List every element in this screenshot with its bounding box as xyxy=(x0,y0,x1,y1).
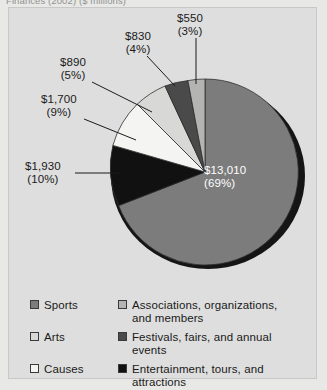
legend-item-associations[interactable]: Associations, organizations, and members xyxy=(118,299,300,325)
legend-swatch-arts xyxy=(30,332,39,341)
chart-legend: Sports Associations, organizations, and … xyxy=(30,299,300,390)
slice-percent-sports: (69%) xyxy=(204,177,246,190)
slice-label-festivals: $830 (4%) xyxy=(125,30,151,55)
legend-label-sports: Sports xyxy=(44,299,78,312)
legend-swatch-festivals xyxy=(118,332,127,341)
legend-row: Causes Entertainment, tours, and attract… xyxy=(30,363,300,389)
slice-label-causes: $1,700 (9%) xyxy=(41,93,77,118)
legend-row: Sports Associations, organizations, and … xyxy=(30,299,300,325)
legend-label-arts: Arts xyxy=(44,331,65,344)
leader-line-arts xyxy=(92,82,152,112)
slice-amount-sports: $13,010 xyxy=(204,164,246,177)
legend-label-causes: Causes xyxy=(44,363,84,376)
legend-row: Arts Festivals, fairs, and annual events xyxy=(30,331,300,357)
legend-label-associations: Associations, organizations, and members xyxy=(132,299,300,325)
pie-svg xyxy=(0,0,327,300)
slice-percent-arts: (5%) xyxy=(60,69,86,82)
legend-item-entertainment[interactable]: Entertainment, tours, and attractions xyxy=(118,363,300,389)
legend-item-festivals[interactable]: Festivals, fairs, and annual events xyxy=(118,331,300,357)
slice-amount-festivals: $830 xyxy=(125,30,151,43)
legend-swatch-sports xyxy=(30,300,39,309)
legend-swatch-associations xyxy=(118,300,127,309)
legend-item-arts[interactable]: Arts xyxy=(30,331,118,344)
slice-label-associations: $550 (3%) xyxy=(177,12,203,37)
legend-label-entertainment: Entertainment, tours, and attractions xyxy=(132,363,300,389)
slice-label-sports: $13,010 (69%) xyxy=(204,164,246,189)
slice-percent-festivals: (4%) xyxy=(125,43,151,56)
slice-percent-associations: (3%) xyxy=(177,25,203,38)
slice-amount-causes: $1,700 xyxy=(41,93,77,106)
pie-chart: $13,010 (69%) $550 (3%) $830 (4%) $890 (… xyxy=(0,0,327,300)
slice-label-arts: $890 (5%) xyxy=(60,56,86,81)
legend-label-festivals: Festivals, fairs, and annual events xyxy=(132,331,300,357)
legend-item-sports[interactable]: Sports xyxy=(30,299,118,312)
legend-swatch-entertainment xyxy=(118,364,127,373)
leader-line-festivals xyxy=(147,56,175,86)
slice-amount-entertainment: $1,930 xyxy=(25,160,61,173)
legend-item-causes[interactable]: Causes xyxy=(30,363,118,376)
slice-percent-causes: (9%) xyxy=(41,106,77,119)
slice-percent-entertainment: (10%) xyxy=(25,173,61,186)
slice-amount-associations: $550 xyxy=(177,12,203,25)
legend-swatch-causes xyxy=(30,364,39,373)
slice-label-entertainment: $1,930 (10%) xyxy=(25,160,61,185)
slice-amount-arts: $890 xyxy=(60,56,86,69)
